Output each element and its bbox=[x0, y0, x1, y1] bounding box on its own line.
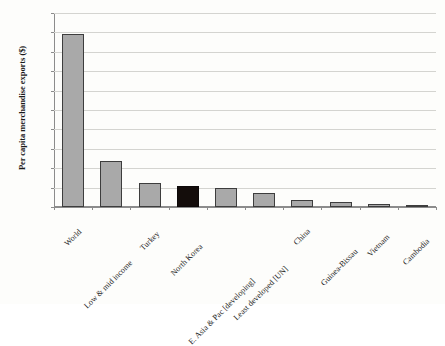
bar-slot bbox=[130, 13, 168, 207]
bar-slot bbox=[207, 13, 245, 207]
x-axis-tick-label-text: World bbox=[63, 227, 84, 248]
x-axis-tick-label-text: Guinea-Bissau bbox=[319, 247, 359, 287]
x-axis-tick-label: Cambodia bbox=[425, 213, 445, 243]
bar-slot bbox=[54, 13, 92, 207]
bar-slot bbox=[169, 13, 207, 207]
bar[interactable] bbox=[253, 193, 275, 207]
bar[interactable] bbox=[291, 200, 313, 207]
bar-slot bbox=[360, 13, 398, 207]
bar[interactable] bbox=[62, 34, 84, 207]
bar-slot bbox=[398, 13, 436, 207]
x-axis-tick-label: World bbox=[77, 213, 98, 234]
bars-container bbox=[54, 13, 436, 207]
bar-slot bbox=[321, 13, 359, 207]
bar-slot bbox=[92, 13, 130, 207]
bar[interactable] bbox=[100, 161, 122, 207]
bar[interactable] bbox=[215, 188, 237, 207]
plot-area: 050100150200250300350400450500 bbox=[54, 13, 436, 207]
x-axis-tick-label-text: Low & mid income bbox=[83, 259, 135, 311]
bar[interactable] bbox=[177, 186, 199, 207]
x-axis-tick-label-text: North Korea bbox=[169, 242, 204, 277]
x-axis-tick-label-text: Cambodia bbox=[401, 237, 431, 267]
x-axis-tick-label: North Korea bbox=[198, 213, 233, 248]
y-axis-title: Per capita merchandise exports ($) bbox=[14, 5, 30, 211]
bar-slot bbox=[283, 13, 321, 207]
bar-slot bbox=[245, 13, 283, 207]
x-tick-mark bbox=[436, 207, 437, 210]
bar[interactable] bbox=[139, 183, 161, 207]
x-axis-labels: WorldLow & mid incomeTurkeyNorth KoreaE.… bbox=[54, 207, 436, 304]
